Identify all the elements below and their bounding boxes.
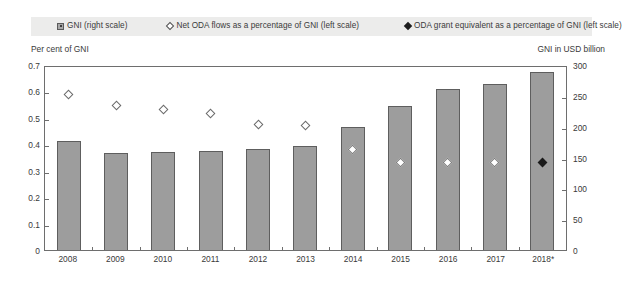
left-axis-tick-label: 0.4 bbox=[28, 141, 40, 149]
bar-gni bbox=[57, 141, 81, 250]
x-axis-tick-label: 2016 bbox=[424, 255, 472, 269]
legend-label-oda-grant-equivalent: ODA grant equivalent as a percentage of … bbox=[414, 22, 622, 30]
right-axis-tick-label: 0 bbox=[573, 247, 578, 255]
bar-group bbox=[377, 67, 424, 250]
bar-gni bbox=[293, 146, 317, 250]
right-axis-tick-mark bbox=[562, 190, 566, 191]
x-axis-tick-label: 2009 bbox=[92, 255, 140, 269]
x-axis-tick-mark bbox=[377, 247, 378, 251]
marker-net-oda bbox=[158, 105, 168, 115]
bar-swatch-icon bbox=[57, 23, 64, 30]
legend-label-gni: GNI (right scale) bbox=[67, 22, 127, 30]
chart-legend: GNI (right scale) Net ODA flows as a per… bbox=[31, 17, 592, 36]
bar-group bbox=[471, 67, 518, 250]
left-axis-tick-label: 0.1 bbox=[28, 220, 40, 228]
bar-group bbox=[187, 67, 234, 250]
x-axis-tick-label: 2013 bbox=[282, 255, 330, 269]
left-axis-tick-label: 0.2 bbox=[28, 194, 40, 202]
x-axis-tick-mark bbox=[282, 247, 283, 251]
bar-group bbox=[92, 67, 139, 250]
bar-group bbox=[45, 67, 92, 250]
bar-group bbox=[140, 67, 187, 250]
legend-label-net-oda: Net ODA flows as a percentage of GNI (le… bbox=[176, 22, 359, 30]
x-axis-tick-label: 2014 bbox=[329, 255, 377, 269]
left-axis-tick-mark bbox=[45, 146, 49, 147]
right-axis-tick-mark bbox=[562, 160, 566, 161]
left-axis-tick-label: 0 bbox=[35, 247, 40, 255]
right-axis-tick-mark bbox=[562, 221, 566, 222]
right-axis-tick-mark bbox=[562, 129, 566, 130]
x-axis-tick-mark bbox=[471, 247, 472, 251]
bar-gni bbox=[246, 149, 270, 250]
left-axis-tick-label: 0.6 bbox=[28, 88, 40, 96]
right-axis-tick-mark bbox=[562, 98, 566, 99]
bar-group bbox=[282, 67, 329, 250]
right-axis-tick-label: 100 bbox=[573, 185, 587, 193]
x-axis-tick-mark bbox=[519, 247, 520, 251]
x-axis-labels: 2008200920102011201220132014201520162017… bbox=[44, 255, 567, 269]
bars-layer bbox=[45, 67, 566, 250]
bar-gni bbox=[151, 152, 175, 250]
x-axis-tick-label: 2011 bbox=[187, 255, 235, 269]
marker-net-oda bbox=[64, 89, 74, 99]
legend-item-gni: GNI (right scale) bbox=[57, 22, 127, 30]
right-y-axis: 300250200150100500 bbox=[573, 66, 607, 251]
left-axis-tick-label: 0.7 bbox=[28, 62, 40, 70]
x-axis-tick-label: 2018* bbox=[519, 255, 567, 269]
bar-gni bbox=[436, 89, 460, 250]
left-axis-tick-mark bbox=[45, 93, 49, 94]
right-axis-tick-label: 250 bbox=[573, 93, 587, 101]
left-axis-tick-mark bbox=[45, 226, 49, 227]
x-axis-tick-label: 2010 bbox=[139, 255, 187, 269]
right-axis-tick-label: 200 bbox=[573, 123, 587, 131]
bar-gni bbox=[199, 151, 223, 250]
marker-net-oda bbox=[111, 101, 121, 111]
x-axis-tick-mark bbox=[140, 247, 141, 251]
left-axis-tick-label: 0.3 bbox=[28, 168, 40, 176]
x-axis-tick-mark bbox=[424, 247, 425, 251]
left-axis-tick-mark bbox=[45, 199, 49, 200]
legend-item-oda-grant-equivalent: ODA grant equivalent as a percentage of … bbox=[405, 22, 622, 30]
plot-area bbox=[44, 66, 567, 251]
x-axis-tick-mark bbox=[92, 247, 93, 251]
x-axis-tick-label: 2017 bbox=[472, 255, 520, 269]
x-axis-tick-mark bbox=[187, 247, 188, 251]
x-axis-tick-mark bbox=[234, 247, 235, 251]
x-axis-tick-label: 2015 bbox=[377, 255, 425, 269]
x-axis-tick-label: 2008 bbox=[44, 255, 92, 269]
marker-net-oda bbox=[301, 121, 311, 131]
bar-group bbox=[519, 67, 566, 250]
marker-net-oda bbox=[206, 109, 216, 119]
bar-group bbox=[329, 67, 376, 250]
bar-group bbox=[234, 67, 281, 250]
left-axis-tick-mark bbox=[45, 173, 49, 174]
right-axis-tick-label: 50 bbox=[573, 216, 582, 224]
left-axis-tick-label: 0.5 bbox=[28, 115, 40, 123]
legend-item-net-oda: Net ODA flows as a percentage of GNI (le… bbox=[167, 22, 359, 30]
left-y-axis: 0.70.60.50.40.30.20.10 bbox=[14, 66, 40, 251]
bar-group bbox=[424, 67, 471, 250]
left-axis-tick-mark bbox=[45, 120, 49, 121]
left-axis-caption: Per cent of GNI bbox=[31, 44, 89, 54]
right-axis-tick-label: 150 bbox=[573, 154, 587, 162]
diamond-open-icon bbox=[166, 22, 174, 30]
diamond-filled-icon bbox=[404, 22, 412, 30]
right-axis-caption: GNI in USD billion bbox=[538, 44, 606, 54]
bar-gni bbox=[388, 106, 412, 250]
x-axis-tick-label: 2012 bbox=[234, 255, 282, 269]
marker-net-oda bbox=[253, 120, 263, 130]
bar-gni bbox=[104, 153, 128, 250]
right-axis-tick-label: 300 bbox=[573, 62, 587, 70]
x-axis-tick-mark bbox=[329, 247, 330, 251]
